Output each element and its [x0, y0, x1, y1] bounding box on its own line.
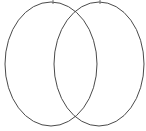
ellipse-diagram-svg: [0, 0, 146, 131]
figure-canvas: [0, 0, 146, 131]
